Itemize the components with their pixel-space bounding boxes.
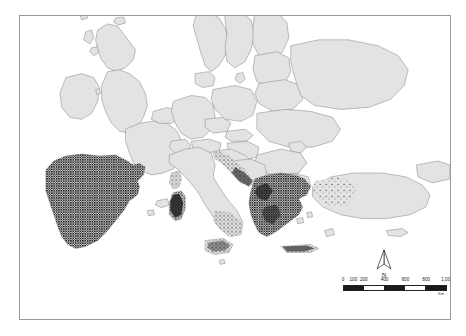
scale-bar: 0 100 200 400 600 800 1,000 Km [342, 277, 451, 299]
island-malta [219, 259, 225, 264]
scale-bar-units: Km [438, 291, 444, 297]
scale-segment-2 [354, 286, 364, 290]
scale-segment-3 [364, 286, 384, 290]
scale-bar-labels: 0 100 200 400 600 800 1,000 [343, 277, 447, 285]
scale-tick-100: 100 [350, 277, 358, 283]
island-balearics-ibiza [147, 210, 154, 216]
map-figure: N 0 100 200 400 600 800 1,000 Km [0, 0, 466, 336]
scale-tick-200: 200 [360, 277, 368, 283]
north-arrow-glyph [375, 249, 393, 271]
scale-segment-5 [405, 286, 425, 290]
north-arrow: N [369, 249, 399, 280]
scale-segment-6 [426, 286, 446, 290]
island-cyclades-b [307, 212, 313, 218]
scale-tick-800: 800 [422, 277, 430, 283]
scale-segment-4 [385, 286, 405, 290]
island-cyclades-a [297, 218, 304, 224]
scale-tick-600: 600 [402, 277, 410, 283]
map-neatline-frame: N 0 100 200 400 600 800 1,000 Km [19, 15, 451, 320]
scale-tick-400: 400 [381, 277, 389, 283]
scale-bar-graphic [343, 285, 447, 291]
scale-tick-1000: 1,000 [441, 277, 451, 283]
scale-tick-0: 0 [342, 277, 345, 283]
scale-segment-1 [344, 286, 354, 290]
island-isleofman [96, 89, 101, 95]
